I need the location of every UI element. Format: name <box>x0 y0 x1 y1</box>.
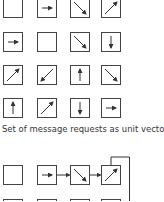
top-grid-cell <box>102 66 121 85</box>
top-grid-cell <box>38 66 57 85</box>
cell-box <box>4 200 23 202</box>
bottom-grid-cell <box>4 200 23 202</box>
cell-box <box>38 200 57 202</box>
cell-box <box>102 200 121 202</box>
diagram-caption: Set of message requests as unit vectors <box>2 124 164 134</box>
top-grid-cell <box>71 99 90 118</box>
cell-box <box>38 0 57 18</box>
top-grid-cell <box>4 33 23 52</box>
cell-box <box>4 0 23 18</box>
bottom-grid-cell <box>102 200 121 202</box>
top-grid-cell <box>102 99 121 118</box>
cell-box <box>102 0 121 18</box>
cell-box <box>38 33 57 52</box>
bottom-grid-cell <box>4 166 23 185</box>
top-grid-cell <box>38 99 57 118</box>
top-grid-cell <box>102 0 121 18</box>
top-grid-cell <box>38 33 57 52</box>
top-grid-cell <box>4 99 23 118</box>
cell-box <box>71 0 90 18</box>
bottom-grid-cell <box>102 166 121 185</box>
cell-box <box>71 200 90 202</box>
bottom-grid-cell <box>38 166 57 185</box>
bottom-grid-cell <box>71 200 90 202</box>
bottom-grid-cell <box>71 166 90 185</box>
top-grid-cell <box>71 66 90 85</box>
top-grid-cell <box>71 33 90 52</box>
top-grid-cell <box>71 0 90 18</box>
top-grid-cell <box>4 66 23 85</box>
top-grid-cell <box>4 0 23 18</box>
bottom-grid-cell <box>38 200 57 202</box>
cell-box <box>4 166 23 185</box>
top-grid-cell <box>38 0 57 18</box>
top-grid-cell <box>102 33 121 52</box>
unit-vector-diagram <box>0 0 164 201</box>
